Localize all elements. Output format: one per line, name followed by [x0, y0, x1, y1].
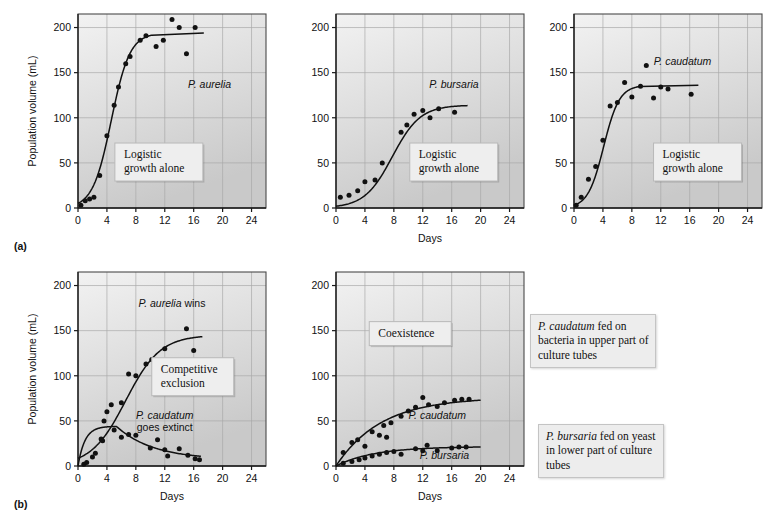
y-tick-label: 0	[323, 460, 329, 472]
data-point	[162, 447, 167, 452]
y-tick-label: 150	[549, 66, 567, 78]
x-axis-label: Days	[418, 490, 442, 502]
data-point	[420, 108, 425, 113]
data-point	[104, 409, 109, 414]
y-tick-label: 100	[53, 370, 71, 382]
note-caudatum-bacteria: P. caudatum fed on bacteria in upper par…	[530, 314, 656, 368]
x-tick-label: 4	[362, 214, 368, 226]
data-point	[177, 25, 182, 30]
callout-box: Logisticgrowth alone	[654, 143, 744, 183]
data-point	[413, 446, 418, 451]
x-tick-label: 0	[333, 214, 339, 226]
data-point	[100, 438, 105, 443]
data-point	[341, 461, 346, 466]
chart-a1: 05010015020004812162024Population volume…	[20, 8, 270, 248]
data-point	[93, 451, 98, 456]
data-point	[377, 452, 382, 457]
x-tick-label: 4	[362, 472, 368, 484]
y-axis-label: Population volume (mL)	[26, 314, 38, 425]
data-point	[362, 455, 367, 460]
data-point	[341, 450, 346, 455]
data-point	[104, 133, 109, 138]
data-point	[119, 400, 124, 405]
data-point	[161, 38, 166, 43]
data-point	[349, 440, 354, 445]
data-point	[459, 397, 464, 402]
data-point	[399, 452, 404, 457]
data-point	[420, 395, 425, 400]
data-point	[391, 449, 396, 454]
curve-label: P. caudatum	[408, 409, 466, 421]
svg-text:Coexistence: Coexistence	[378, 327, 434, 339]
curve-label: P. caudatum	[654, 55, 712, 67]
callout-box: Competitiveexclusion	[152, 358, 236, 398]
y-tick-label: 200	[53, 21, 71, 33]
y-tick-label: 200	[311, 279, 329, 291]
data-point	[112, 103, 117, 108]
x-tick-label: 16	[446, 214, 458, 226]
data-point	[347, 193, 352, 198]
data-point	[629, 95, 634, 100]
x-tick-label: 16	[188, 214, 200, 226]
data-point	[426, 402, 431, 407]
data-point	[170, 17, 175, 22]
data-point	[404, 122, 409, 127]
curve-label: P. bursaria	[429, 78, 479, 90]
data-point	[133, 373, 138, 378]
data-point	[380, 160, 385, 165]
x-axis-label: Days	[160, 490, 184, 502]
data-point	[608, 104, 613, 109]
x-tick-label: 12	[159, 214, 171, 226]
data-point	[165, 454, 170, 459]
panel-b: (b) 05010015020004812162024Population vo…	[0, 258, 766, 526]
x-tick-label: 20	[713, 214, 725, 226]
data-point	[412, 112, 417, 117]
x-tick-label: 20	[475, 214, 487, 226]
y-tick-label: 100	[53, 112, 71, 124]
x-tick-label: 0	[75, 214, 81, 226]
data-point	[138, 38, 143, 43]
x-tick-label: 8	[133, 214, 139, 226]
callout-box: Coexistence	[369, 322, 453, 348]
data-point	[586, 177, 591, 182]
y-tick-label: 50	[59, 415, 71, 427]
data-point	[87, 196, 92, 201]
data-point	[84, 460, 89, 465]
data-point	[197, 457, 202, 462]
data-point	[658, 85, 663, 90]
y-tick-label: 150	[53, 66, 71, 78]
data-point	[193, 456, 198, 461]
data-point	[428, 115, 433, 120]
x-tick-label: 16	[446, 472, 458, 484]
data-point	[133, 433, 138, 438]
data-point	[600, 138, 605, 143]
chart-a3-svg: 05010015020004812162024P. caudatumLogist…	[516, 8, 766, 248]
data-point	[185, 453, 190, 458]
data-point	[143, 362, 148, 367]
y-tick-label: 200	[549, 21, 567, 33]
y-axis-label: Population volume (mL)	[26, 56, 38, 167]
chart-b1: 05010015020004812162024Population volume…	[20, 266, 270, 506]
x-axis-label: Days	[418, 232, 442, 244]
chart-a2: 05010015020004812162024DaysP. bursariaLo…	[278, 8, 528, 248]
x-tick-label: 4	[104, 214, 110, 226]
x-tick-label: 0	[571, 214, 577, 226]
y-tick-label: 100	[549, 112, 567, 124]
data-point	[154, 44, 159, 49]
x-tick-label: 8	[133, 472, 139, 484]
y-tick-label: 150	[311, 324, 329, 336]
data-point	[349, 459, 354, 464]
data-point	[193, 25, 198, 30]
x-tick-label: 24	[504, 472, 516, 484]
data-point	[97, 173, 102, 178]
data-point	[143, 33, 148, 38]
data-point	[191, 348, 196, 353]
data-point	[593, 164, 598, 169]
note-1-species: P. caudatum	[538, 320, 595, 332]
chart-a1-svg: 05010015020004812162024Population volume…	[20, 8, 270, 248]
data-point	[436, 106, 441, 111]
y-tick-label: 150	[311, 66, 329, 78]
data-point	[370, 429, 375, 434]
x-tick-label: 8	[629, 214, 635, 226]
y-tick-label: 50	[59, 157, 71, 169]
